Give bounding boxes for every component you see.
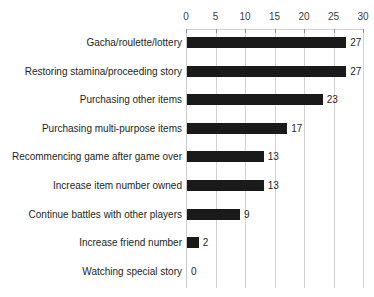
value-label-1: 27 [350, 66, 361, 78]
bar-row: Purchasing other items23 [0, 90, 374, 119]
value-label-8: 0 [191, 266, 197, 278]
value-label-3: 17 [291, 123, 302, 135]
bar-1 [187, 66, 346, 77]
x-tick-label-5: 5 [204, 11, 228, 23]
category-label-0: Gacha/roulette/lottery [4, 37, 182, 49]
bar-6 [187, 209, 240, 220]
bar-row: Increase friend number2 [0, 233, 374, 262]
x-tick-label-15: 15 [263, 11, 287, 23]
value-label-2: 23 [327, 94, 338, 106]
value-label-7: 2 [203, 237, 209, 249]
category-label-4: Recommencing game after game over [4, 151, 182, 163]
category-label-6: Continue battles with other players [4, 209, 182, 221]
value-label-0: 27 [350, 37, 361, 49]
bar-4 [187, 151, 264, 162]
bar-row: Purchasing multi-purpose items17 [0, 119, 374, 148]
bar-7 [187, 237, 199, 248]
bar-row: Watching special story0 [0, 262, 374, 291]
bar-2 [187, 94, 323, 105]
bar-0 [187, 37, 346, 48]
x-tick-label-30: 30 [351, 11, 374, 23]
x-tick-label-20: 20 [292, 11, 316, 23]
bar-row: Gacha/roulette/lottery27 [0, 33, 374, 62]
category-label-1: Restoring stamina/proceeding story [4, 66, 182, 78]
category-label-7: Increase friend number [4, 237, 182, 249]
value-label-4: 13 [268, 151, 279, 163]
category-label-8: Watching special story [4, 266, 182, 278]
bar-3 [187, 123, 287, 134]
x-tick-label-10: 10 [233, 11, 257, 23]
value-label-6: 9 [244, 209, 250, 221]
category-label-3: Purchasing multi-purpose items [4, 123, 182, 135]
bar-row: Increase item number owned13 [0, 176, 374, 205]
bar-row: Restoring stamina/proceeding story27 [0, 62, 374, 91]
bar-row: Continue battles with other players9 [0, 205, 374, 234]
x-tick-label-0: 0 [174, 11, 198, 23]
category-label-5: Increase item number owned [4, 180, 182, 192]
bar-row: Recommencing game after game over13 [0, 147, 374, 176]
category-label-2: Purchasing other items [4, 94, 182, 106]
horizontal-bar-chart: 051015202530 Gacha/roulette/lottery27Res… [0, 0, 374, 297]
value-label-5: 13 [268, 180, 279, 192]
x-tick-label-25: 25 [322, 11, 346, 23]
bar-5 [187, 180, 264, 191]
